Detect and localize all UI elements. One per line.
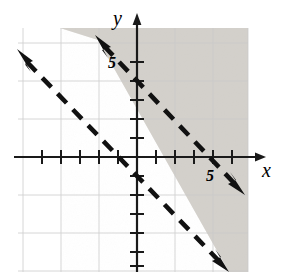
shaded-solution-region: [60, 28, 248, 272]
y-axis-label: y: [113, 8, 122, 28]
x-axis-tick-label-5: 5: [206, 168, 214, 184]
x-axis-label: x: [262, 160, 271, 180]
plot-canvas: [0, 0, 282, 280]
y-axis-tick-label-5: 5: [108, 55, 116, 71]
inequality-graph-figure: y x 5 5: [0, 0, 282, 280]
